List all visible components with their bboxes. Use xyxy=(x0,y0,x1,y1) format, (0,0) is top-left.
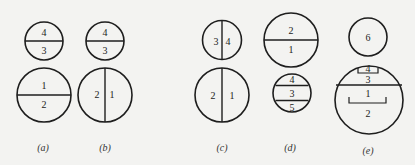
label: 4 xyxy=(290,74,295,85)
panel-e-bottom-circle: 4 3 1 2 xyxy=(335,63,403,135)
panel-d-top-circle: 2 1 xyxy=(264,13,318,67)
panel-b-bottom-circle: 2 1 xyxy=(78,68,132,122)
panel-caption: (d) xyxy=(284,142,296,154)
label: 2 xyxy=(289,25,294,36)
label: 2 xyxy=(42,99,47,110)
label: 3 xyxy=(103,45,108,56)
panel-c: 3 4 2 1 (c) xyxy=(195,21,249,154)
label: 1 xyxy=(42,80,47,91)
label: 4 xyxy=(366,63,371,74)
label: 1 xyxy=(289,44,294,55)
panel-d: 2 1 4 3 5 (d) xyxy=(264,13,318,154)
label: 4 xyxy=(103,27,108,38)
label: 4 xyxy=(226,36,231,47)
panel-d-bottom-circle: 4 3 5 xyxy=(273,74,311,113)
label: 2 xyxy=(211,90,216,101)
panel-e: 6 4 3 1 2 (e) xyxy=(335,18,403,157)
panel-caption: (b) xyxy=(99,142,111,154)
panel-caption: (e) xyxy=(362,145,374,157)
panel-caption: (c) xyxy=(216,142,228,154)
panel-caption: (a) xyxy=(37,142,49,154)
label: 3 xyxy=(214,36,219,47)
label: 6 xyxy=(366,32,371,43)
label: 1 xyxy=(366,88,371,99)
panel-c-top-circle: 3 4 xyxy=(203,21,242,60)
label: 3 xyxy=(366,74,371,85)
label: 5 xyxy=(290,102,295,113)
label: 2 xyxy=(95,89,100,100)
label: 2 xyxy=(366,108,371,119)
label: 3 xyxy=(290,88,295,99)
label: 1 xyxy=(230,90,235,101)
label: 1 xyxy=(110,89,115,100)
panel-b-top-circle: 4 3 xyxy=(86,22,124,60)
label: 4 xyxy=(42,27,47,38)
panel-c-bottom-circle: 2 1 xyxy=(195,68,249,122)
rotation-diagram: 4 3 1 2 (a) 4 3 2 1 (b) 3 xyxy=(0,0,415,165)
panel-a-bottom-circle: 1 2 xyxy=(17,68,71,122)
panel-e-top-circle: 6 xyxy=(349,18,387,56)
panel-b: 4 3 2 1 (b) xyxy=(78,22,132,154)
panel-a: 4 3 1 2 (a) xyxy=(17,22,71,154)
panel-a-top-circle: 4 3 xyxy=(25,22,63,60)
label: 3 xyxy=(42,45,47,56)
